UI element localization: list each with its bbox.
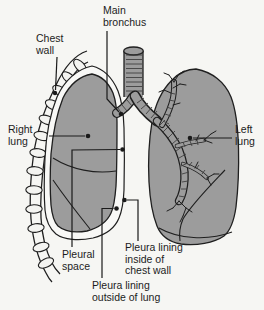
pleural-space-dot (120, 147, 125, 152)
trachea (124, 47, 144, 97)
label-main-bronchus: Main bronchus (103, 5, 146, 28)
lung-anatomy-diagram: Main bronchus Chest wall Right lung Left… (0, 0, 264, 310)
pleura-inside-leader (127, 200, 138, 241)
label-right-lung: Right lung (8, 124, 33, 147)
left-lung-shape (149, 69, 239, 245)
rib-icon (27, 166, 44, 176)
rib-icon (26, 186, 43, 195)
label-line: Pleura lining (125, 242, 183, 254)
label-line: outside of lung (92, 292, 160, 304)
rib-icon (26, 204, 43, 213)
label-line: Pleura lining (92, 280, 160, 292)
label-line: wall (36, 45, 63, 57)
label-line: Left (235, 124, 255, 136)
label-pleural-space: Pleural space (62, 249, 95, 272)
label-left-lung: Left lung (235, 124, 255, 147)
pleura-inside-dot (122, 198, 127, 203)
rib-icon (29, 148, 46, 159)
label-line: Main (103, 5, 146, 17)
label-line: space (62, 261, 95, 273)
label-line: bronchus (103, 17, 146, 29)
label-pleura-lining-outside: Pleura lining outside of lung (92, 280, 160, 303)
pleura-outside-dot (114, 206, 119, 211)
chest-wall-dot (53, 91, 57, 95)
label-line: Chest (36, 33, 63, 45)
label-line: Right (8, 124, 33, 136)
label-line: lung (235, 136, 255, 148)
label-pleura-lining-inside: Pleura lining inside of chest wall (125, 242, 183, 277)
left-lung-dot (188, 136, 193, 141)
label-line: lung (8, 136, 33, 148)
main-bronchus-dot (119, 112, 124, 117)
label-line: Pleural (62, 249, 95, 261)
label-chest-wall: Chest wall (36, 33, 63, 56)
right-lung-dot (86, 134, 91, 139)
label-line: chest wall (125, 265, 183, 277)
